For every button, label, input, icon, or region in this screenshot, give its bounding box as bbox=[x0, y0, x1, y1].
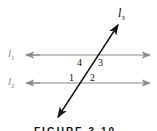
angle-label-3: 3 bbox=[98, 57, 103, 68]
angle-label-2: 2 bbox=[90, 72, 95, 83]
label-l3: l3 bbox=[118, 6, 125, 22]
label-l2: l2 bbox=[8, 75, 15, 90]
angle-label-4: 4 bbox=[77, 57, 82, 68]
figure-caption: FIGURE 3.10 bbox=[34, 126, 116, 131]
line-l3-transversal bbox=[58, 25, 118, 117]
label-l1: l1 bbox=[8, 47, 15, 62]
angle-label-1: 1 bbox=[69, 72, 74, 83]
